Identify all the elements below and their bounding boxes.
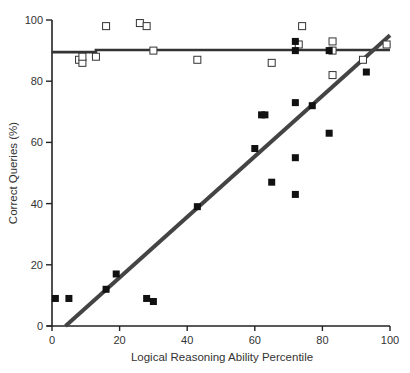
open-square-marker [299,23,306,30]
y-tick-label: 20 [31,259,43,271]
filled-square-marker [194,203,201,210]
open-square-marker [194,56,201,63]
y-tick-label: 80 [31,75,43,87]
x-tick-label: 80 [316,334,328,346]
filled-square-marker [268,179,275,186]
x-tick-label: 100 [381,334,399,346]
filled-square-marker [103,286,110,293]
filled-square-marker [292,154,299,161]
open-square-marker [329,38,336,45]
filled-square-marker [292,99,299,106]
scatter-chart: 020406080100020406080100 Logical Reasoni… [0,0,410,373]
filled-square-marker [292,47,299,54]
x-tick-label: 60 [249,334,261,346]
open-square-marker [79,53,86,60]
x-axis-title: Logical Reasoning Ability Percentile [131,351,313,363]
filled-square-marker [251,145,258,152]
open-square-marker [103,23,110,30]
open-series-fit-line [52,50,390,52]
x-tick-label: 0 [49,334,55,346]
x-tick-label: 40 [181,334,193,346]
filled-square-marker [309,102,316,109]
filled-square-marker [326,47,333,54]
filled-square-marker [65,295,72,302]
filled-square-marker [113,270,120,277]
open-square-marker [359,56,366,63]
open-square-marker [329,72,336,79]
filled-square-marker [292,38,299,45]
filled-series-fit-line [66,35,390,326]
filled-square-marker [363,69,370,76]
y-tick-label: 0 [37,320,43,332]
open-square-marker [268,59,275,66]
y-tick-label: 40 [31,198,43,210]
y-tick-label: 60 [31,136,43,148]
filled-square-marker [150,298,157,305]
filled-square-marker [143,295,150,302]
open-square-marker [383,41,390,48]
filled-square-marker [326,130,333,137]
open-square-marker [92,53,99,60]
data-markers [52,20,390,305]
filled-square-marker [52,295,59,302]
filled-square-marker [292,191,299,198]
fit-lines [52,35,390,326]
filled-square-marker [261,111,268,118]
x-tick-label: 20 [113,334,125,346]
open-square-marker [150,47,157,54]
y-axis-title: Correct Queries (%) [7,122,19,224]
open-square-marker [143,23,150,30]
open-square-marker [136,20,143,27]
y-tick-label: 100 [25,14,43,26]
